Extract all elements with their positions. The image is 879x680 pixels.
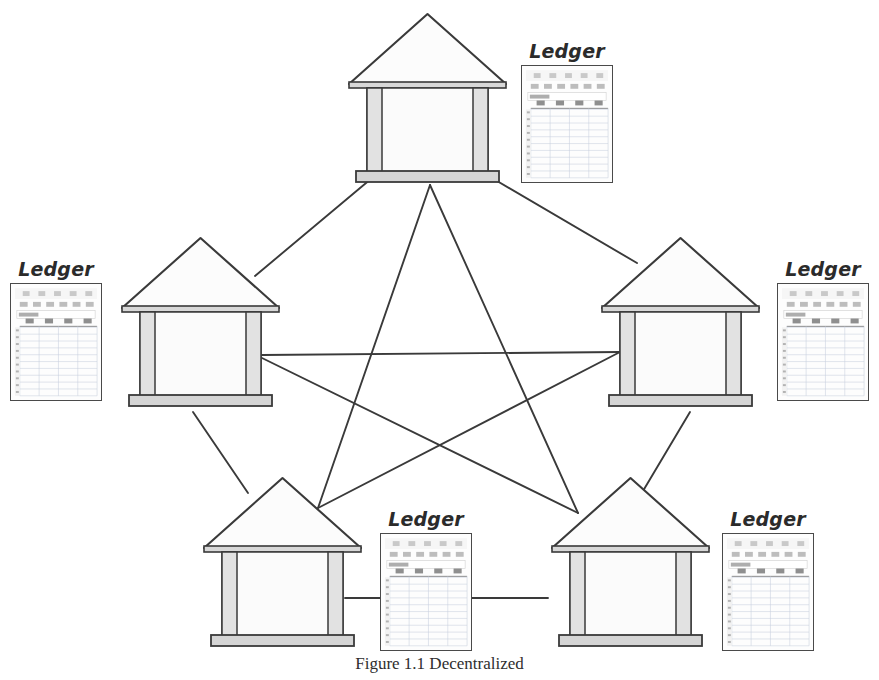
sheet-toolbar-icon xyxy=(390,552,398,557)
sheet-toolbar-icon xyxy=(826,302,834,307)
sheet-toolbar-icon xyxy=(570,84,578,89)
sheet-toolbar-icon xyxy=(33,302,41,307)
pavilion-left-ledger: Ledger xyxy=(10,258,102,401)
sheet-toolbar-icon xyxy=(393,541,400,546)
sheet-toolbar-icon xyxy=(54,291,61,296)
sheet-toolbar-icon xyxy=(70,291,77,296)
ledger-sheet xyxy=(380,533,472,651)
decentralized-ledger-diagram: Ledger Ledger Ledger xyxy=(0,0,879,680)
sheet-toolbar-icon xyxy=(534,73,541,78)
sheet-column-header xyxy=(796,569,804,574)
sheet-row-number xyxy=(16,391,19,393)
sheet-formula-text xyxy=(19,313,39,317)
figure-caption: Figure 1.1 Decentralized xyxy=(0,654,879,674)
sheet-toolbar-icon xyxy=(23,291,30,296)
pavilion-base xyxy=(609,395,752,406)
pavilion-body xyxy=(222,552,343,636)
pavilion-pillar-left xyxy=(367,88,382,172)
sheet-row-number xyxy=(386,586,389,588)
pavilion-body xyxy=(367,88,488,172)
pavilion-roof-icon xyxy=(204,478,361,548)
pavilion-roof-eave xyxy=(122,306,279,312)
sheet-row-number xyxy=(386,627,389,629)
sheet-toolbar-icon xyxy=(456,552,464,557)
sheet-row-number xyxy=(527,166,530,168)
sheet-toolbar-icon xyxy=(798,552,806,557)
sheet-row-number xyxy=(783,391,786,393)
ledger-spreadsheet-icon xyxy=(778,284,868,400)
pavilion-bottom-left xyxy=(200,472,365,654)
edge-top-to-bottom-right xyxy=(430,185,578,513)
sheet-column-header xyxy=(793,319,801,324)
sheet-row-number xyxy=(728,641,731,643)
sheet-row-number xyxy=(386,614,389,616)
pavilion-body xyxy=(140,312,261,396)
sheet-row-number xyxy=(527,132,530,134)
pavilion-roof-icon xyxy=(122,238,279,308)
pavilion-roof-eave xyxy=(552,546,709,552)
sheet-toolbar-icon xyxy=(813,302,821,307)
sheet-row-number xyxy=(386,579,389,581)
sheet-row-number xyxy=(527,173,530,175)
sheet-toolbar-icon xyxy=(745,552,753,557)
pavilion-base xyxy=(211,635,354,646)
pavilion-body xyxy=(570,552,691,636)
sheet-toolbar-icon xyxy=(408,541,415,546)
ledger-label: Ledger xyxy=(722,508,814,530)
pavilion-roof-icon xyxy=(349,14,506,84)
sheet-column-header xyxy=(851,319,859,324)
sheet-toolbar-icon xyxy=(852,291,859,296)
ledger-sheet xyxy=(722,533,814,651)
pavilion-pillar-right xyxy=(473,88,488,172)
ledger-spreadsheet-icon xyxy=(522,66,612,182)
sheet-row-number xyxy=(783,377,786,379)
sheet-row-number xyxy=(527,159,530,161)
sheet-row-number xyxy=(16,370,19,372)
ledger-spreadsheet-icon xyxy=(381,534,471,650)
sheet-toolbar-icon xyxy=(797,541,804,546)
sheet-column-header xyxy=(831,319,839,324)
pavilion-top-ledger: Ledger xyxy=(521,40,613,183)
sheet-toolbar-icon xyxy=(544,84,552,89)
sheet-row-number xyxy=(527,111,530,113)
sheet-toolbar-icon xyxy=(750,541,757,546)
pavilion-icon xyxy=(200,472,365,654)
sheet-toolbar-icon xyxy=(787,302,795,307)
pavilion-base xyxy=(559,635,702,646)
pavilion-top xyxy=(345,8,510,190)
sheet-row-number xyxy=(783,370,786,372)
sheet-row-number xyxy=(728,579,731,581)
sheet-toolbar-icon xyxy=(771,552,779,557)
sheet-toolbar-icon xyxy=(455,541,462,546)
sheet-column-header xyxy=(575,101,583,106)
ledger-label: Ledger xyxy=(380,508,472,530)
pavilion-base xyxy=(129,395,272,406)
sheet-toolbar-icon xyxy=(549,73,556,78)
sheet-row-number xyxy=(527,146,530,148)
pavilion-body xyxy=(620,312,741,396)
sheet-toolbar-icon xyxy=(403,552,411,557)
sheet-toolbar-icon xyxy=(531,84,539,89)
sheet-column-header xyxy=(26,319,34,324)
pavilion-pillar-right xyxy=(726,312,741,396)
sheet-formula-text xyxy=(530,95,550,99)
sheet-toolbar-icon xyxy=(805,291,812,296)
sheet-row-number xyxy=(728,634,731,636)
sheet-row-number xyxy=(16,357,19,359)
pavilion-bottom-right-ledger: Ledger xyxy=(722,508,814,651)
sheet-toolbar-icon xyxy=(766,541,773,546)
ledger-spreadsheet-icon xyxy=(11,284,101,400)
sheet-row-number xyxy=(386,600,389,602)
sheet-toolbar-icon xyxy=(785,552,793,557)
sheet-row-number xyxy=(728,593,731,595)
sheet-toolbar-icon xyxy=(443,552,451,557)
sheet-row-number xyxy=(527,139,530,141)
ledger-sheet xyxy=(777,283,869,401)
sheet-toolbar-icon xyxy=(429,552,437,557)
ledger-sheet xyxy=(10,283,102,401)
pavilion-base xyxy=(356,171,499,182)
pavilion-pillar-left xyxy=(570,552,585,636)
sheet-column-header xyxy=(45,319,53,324)
pavilion-roof-eave xyxy=(602,306,759,312)
sheet-row-number xyxy=(527,152,530,154)
